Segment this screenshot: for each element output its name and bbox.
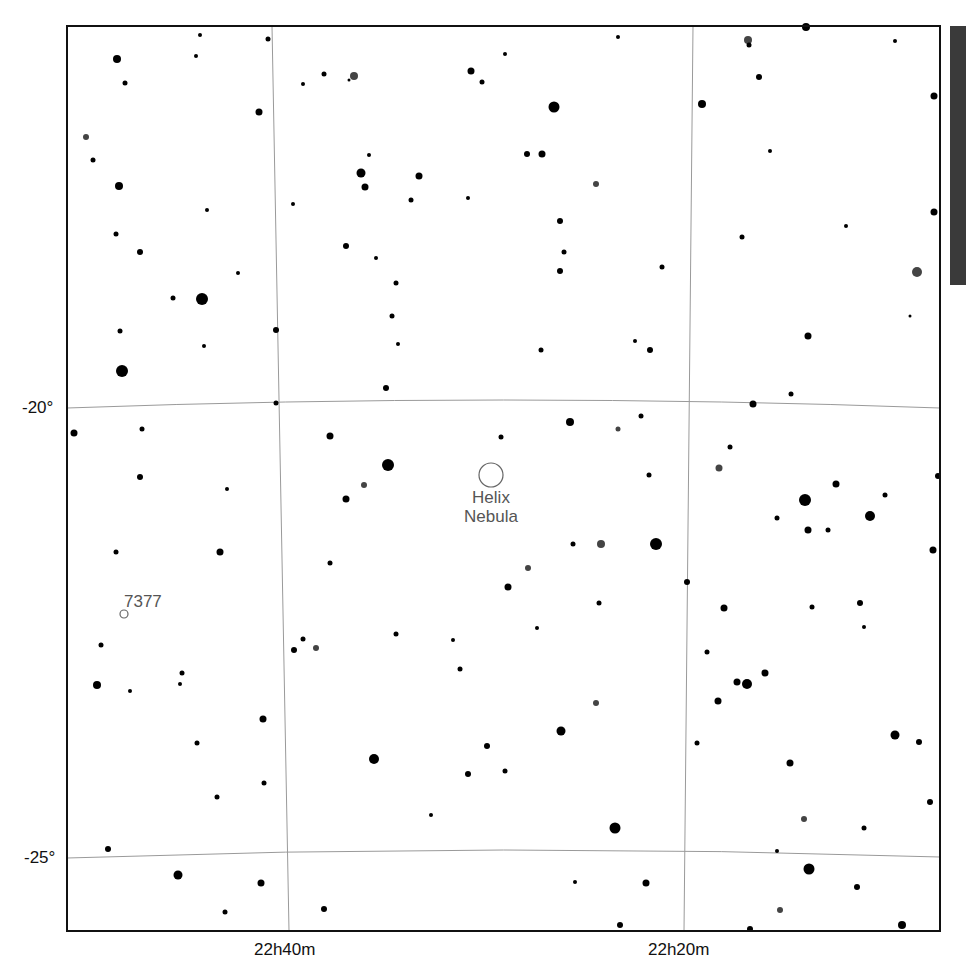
star [113, 55, 121, 63]
star [374, 256, 378, 260]
star [266, 37, 271, 42]
star [593, 181, 599, 187]
star [503, 769, 508, 774]
star [698, 100, 706, 108]
star [140, 427, 145, 432]
star [83, 134, 89, 140]
star [484, 743, 490, 749]
star [458, 667, 463, 672]
star [396, 342, 400, 346]
star [716, 465, 723, 472]
star [321, 906, 327, 912]
star [313, 645, 319, 651]
star [178, 682, 182, 686]
star [205, 208, 209, 212]
star [115, 182, 123, 190]
star [118, 329, 123, 334]
star [451, 638, 455, 642]
star [650, 538, 662, 550]
star [105, 846, 111, 852]
star [357, 169, 366, 178]
star [617, 922, 623, 928]
star [557, 727, 566, 736]
star [728, 445, 733, 450]
star [180, 671, 185, 676]
star [562, 250, 567, 255]
star [539, 151, 546, 158]
ngc7377-label: 7377 [124, 592, 162, 611]
star [362, 184, 369, 191]
star [566, 418, 574, 426]
star [756, 74, 762, 80]
ra-label-22h40m: 22h40m [254, 940, 315, 960]
star [328, 561, 333, 566]
dec-label-minus-25: -25° [24, 848, 55, 868]
star [777, 907, 783, 913]
star [775, 849, 779, 853]
star [616, 427, 621, 432]
star [912, 267, 922, 277]
star [549, 102, 560, 113]
star [343, 243, 349, 249]
star [927, 799, 933, 805]
star [223, 910, 228, 915]
star [367, 153, 371, 157]
star [893, 39, 897, 43]
star [787, 760, 794, 767]
star [91, 158, 96, 163]
star [633, 339, 637, 343]
star [616, 35, 620, 39]
star [762, 670, 769, 677]
star [369, 754, 379, 764]
star [525, 565, 531, 571]
star [114, 232, 119, 237]
star [361, 482, 367, 488]
star-chart [0, 0, 966, 967]
star [198, 33, 202, 37]
star [217, 549, 224, 556]
star [99, 643, 104, 648]
star [137, 249, 143, 255]
star [647, 473, 652, 478]
star [480, 80, 485, 85]
star [262, 781, 267, 786]
dec-grid-line [67, 400, 940, 408]
star [750, 401, 757, 408]
star [854, 884, 860, 890]
star [416, 173, 423, 180]
star [215, 795, 220, 800]
star [394, 281, 399, 286]
star [524, 151, 530, 157]
star [647, 347, 653, 353]
coordinate-grid [67, 26, 940, 931]
star [721, 605, 728, 612]
star [114, 550, 119, 555]
star [256, 109, 263, 116]
star [898, 921, 906, 929]
star [465, 771, 471, 777]
star [503, 52, 507, 56]
star [123, 81, 128, 86]
star [429, 813, 433, 817]
star [258, 880, 265, 887]
nebula-marker-icon [479, 463, 503, 487]
star [789, 392, 794, 397]
star [225, 487, 229, 491]
star [291, 202, 295, 206]
star [236, 271, 240, 275]
star [801, 816, 807, 822]
star [301, 637, 306, 642]
star [705, 650, 710, 655]
star [593, 700, 599, 706]
star [916, 739, 922, 745]
star [274, 401, 279, 406]
star [804, 864, 815, 875]
star [742, 679, 752, 689]
dec-label-minus-20: -20° [22, 398, 53, 418]
star [343, 496, 350, 503]
star [775, 516, 780, 521]
star [466, 196, 470, 200]
star [931, 93, 938, 100]
star [857, 600, 863, 606]
scroll-bar[interactable] [950, 26, 966, 285]
